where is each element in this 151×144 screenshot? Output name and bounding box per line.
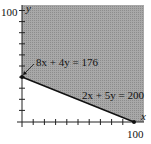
corner-point-100-0	[132, 120, 136, 124]
feasible-region-chart: 100 y x 100 8x + 4y = 176 2x + 5y = 200	[0, 0, 151, 144]
equation-label-2: 2x + 5y = 200	[82, 89, 144, 101]
y-max-label: 100	[1, 6, 18, 18]
corner-point-0-40	[20, 75, 24, 79]
x-max-label: 100	[127, 128, 144, 140]
y-axis-label: y	[25, 2, 31, 14]
x-axis-label: x	[140, 110, 146, 122]
equation-label-1: 8x + 4y = 176	[36, 56, 98, 68]
